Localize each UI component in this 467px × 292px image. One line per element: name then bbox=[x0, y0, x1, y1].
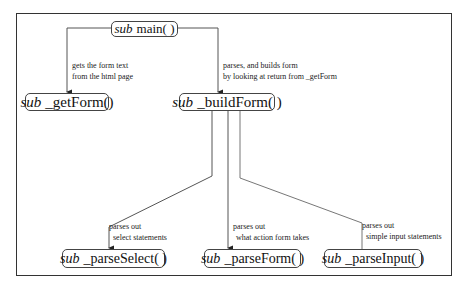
call-graph-diagram: submain( ) sub_getForm() sub_buildForm( … bbox=[0, 0, 467, 292]
sub-keyword: sub bbox=[115, 21, 133, 37]
edge-label-main-buildForm: parses, and builds form by looking at re… bbox=[223, 60, 337, 82]
node-getForm: sub_getForm() bbox=[25, 93, 109, 111]
function-name: main( ) bbox=[137, 21, 175, 37]
node-parseInput: sub_parseInput( ) bbox=[324, 249, 422, 268]
sub-keyword: sub bbox=[172, 94, 193, 111]
node-parseSelect: sub_parseSelect( ) bbox=[62, 249, 165, 268]
sub-keyword: sub bbox=[322, 251, 341, 267]
sub-keyword: sub bbox=[201, 251, 220, 267]
function-name: _parseSelect( ) bbox=[83, 251, 167, 267]
edge-label-buildForm-parseInput: parses out simple input statements bbox=[362, 220, 442, 242]
sub-keyword: sub bbox=[20, 94, 41, 111]
function-name: _getForm() bbox=[45, 94, 113, 111]
function-name: _buildForm( ) bbox=[197, 94, 282, 111]
edge-label-main-getForm: gets the form text from the html page bbox=[72, 60, 133, 82]
node-buildForm: sub_buildForm( ) bbox=[179, 93, 275, 111]
edge-main-buildForm bbox=[178, 28, 218, 92]
function-name: _parseInput( ) bbox=[345, 251, 424, 267]
node-parseForm: sub_parseForm( ) bbox=[204, 249, 301, 268]
function-name: _parseForm( ) bbox=[224, 251, 304, 267]
node-main: submain( ) bbox=[111, 21, 178, 37]
sub-keyword: sub bbox=[60, 251, 79, 267]
edge-label-buildForm-parseSelect: parses out select statements bbox=[109, 221, 167, 243]
edge-label-buildForm-parseForm: parses out what action form takes bbox=[233, 221, 309, 243]
